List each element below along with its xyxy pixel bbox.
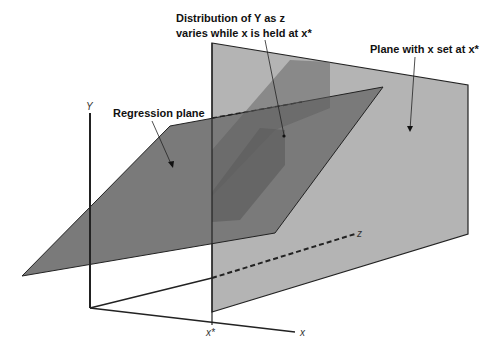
regression-diagram: Y x z x* Distribution of Y as z varies w…	[0, 0, 482, 352]
regression-plane-label: Regression plane	[113, 107, 205, 119]
x-star-label: x*	[205, 327, 216, 338]
plane-x-label: Plane with x set at x*	[370, 43, 480, 55]
z-axis-label: z	[356, 228, 362, 239]
z-axis	[90, 278, 212, 308]
x-axis-label: x	[299, 327, 306, 338]
y-axis-label: Y	[86, 101, 94, 112]
distribution-label-line1: Distribution of Y as z	[176, 12, 285, 24]
distribution-label-line2: varies while x is held at x*	[176, 27, 312, 39]
x-axis	[90, 308, 295, 332]
distribution-pointer-head	[282, 134, 285, 137]
